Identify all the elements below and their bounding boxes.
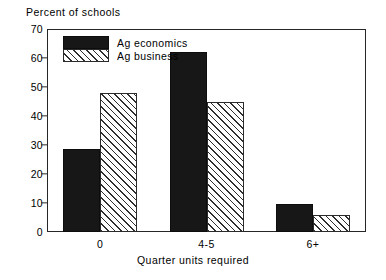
bar-ag-economics-0: [63, 149, 100, 232]
legend-swatch-ag-business: [63, 49, 109, 62]
y-tick-mark: [41, 86, 48, 87]
y-tick-label: 50: [3, 81, 43, 93]
y-tick-label: 40: [3, 110, 43, 122]
y-tick-label: 20: [3, 168, 43, 180]
bar-chart: Percent of schools 010203040506070 04-56…: [0, 0, 386, 280]
y-tick-label: 10: [3, 197, 43, 209]
y-tick-label: 30: [3, 139, 43, 151]
x-tick-label: 4-5: [198, 238, 214, 250]
y-tick-mark: [41, 115, 48, 116]
y-tick-mark: [41, 57, 48, 58]
bar-ag-business-6plus: [313, 215, 350, 232]
x-tick-label: 6+: [306, 238, 319, 250]
legend-swatch-ag-economics: [63, 36, 109, 49]
legend-label: Ag business: [117, 50, 179, 62]
x-axis-title: Quarter units required: [0, 254, 386, 266]
legend-item: Ag economics: [63, 36, 188, 49]
bar-ag-economics-6plus: [276, 204, 313, 232]
legend-label: Ag economics: [117, 37, 188, 49]
legend: Ag economicsAg business: [63, 36, 188, 62]
x-tick-label: 0: [97, 238, 103, 250]
y-tick-label: 70: [3, 23, 43, 35]
y-tick-label: 0: [3, 226, 43, 238]
y-axis-title: Percent of schools: [26, 6, 120, 18]
bar-ag-business-0: [100, 93, 137, 232]
y-tick-mark: [41, 144, 48, 145]
bar-ag-economics-4-5: [170, 52, 207, 232]
y-tick-mark: [41, 202, 48, 203]
y-tick-mark: [41, 173, 48, 174]
legend-item: Ag business: [63, 49, 188, 62]
y-tick-label: 60: [3, 52, 43, 64]
bar-ag-business-4-5: [207, 102, 244, 233]
